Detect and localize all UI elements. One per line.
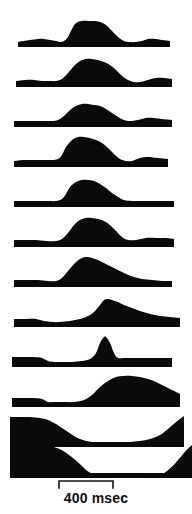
trace-10 [12,376,180,407]
trace-8 [14,299,180,327]
waveform-figure: 400 msec [0,0,192,514]
trace-7 [14,257,172,287]
trace-1 [18,21,170,47]
trace-6 [14,218,174,247]
scale-bar: 400 msec [0,478,192,514]
trace-2 [16,59,172,87]
traces-canvas [0,0,192,514]
trace-5 [14,180,174,207]
scale-bar-label: 400 msec [0,490,192,506]
trace-4 [14,137,168,167]
trace-3 [14,104,172,127]
scale-bar-bracket [59,481,113,488]
trace-11 [10,416,184,447]
trace-9 [12,336,172,367]
